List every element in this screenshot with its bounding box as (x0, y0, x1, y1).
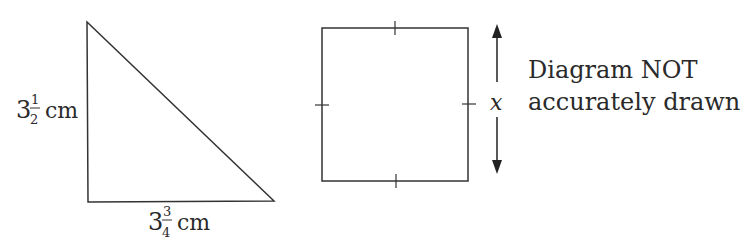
svg-text:cm: cm (177, 210, 210, 235)
svg-text:cm: cm (45, 98, 78, 123)
svg-text:4: 4 (162, 225, 170, 240)
square (315, 21, 476, 188)
svg-text:1: 1 (31, 92, 39, 107)
svg-text:3: 3 (148, 208, 163, 236)
right-triangle (87, 22, 274, 202)
svg-text:3: 3 (163, 204, 171, 219)
square-side-label: x (490, 90, 503, 115)
note-line-2: accurately drawn (528, 88, 740, 116)
svg-text:2: 2 (30, 112, 38, 127)
triangle-base-label: 3 3 4 cm (148, 204, 210, 240)
triangle-height-label: 3 1 2 cm (16, 92, 78, 127)
note-line-1: Diagram NOT (528, 56, 697, 84)
svg-text:3: 3 (16, 96, 31, 124)
diagram-canvas: 3 1 2 cm 3 3 4 cm x Diagram NOT accurate… (0, 0, 754, 250)
